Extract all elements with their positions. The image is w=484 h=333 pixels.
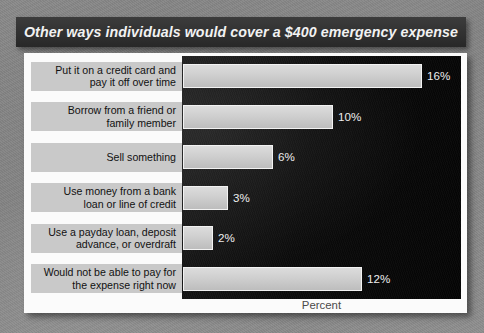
category-label-line: Use a payday loan, deposit (48, 226, 176, 238)
bar (183, 145, 273, 169)
bar-value-label: 3% (233, 191, 250, 204)
plot-area: 16%10%6%3%2%12% (182, 56, 461, 299)
bar-value-label: 2% (218, 231, 235, 244)
category-label-line: loan or line of credit (84, 198, 176, 210)
bar (183, 105, 333, 129)
category-label: Use money from a bankloan or line of cre… (31, 183, 182, 212)
category-label-column: Put it on a credit card andpay it off ov… (31, 56, 182, 299)
category-label: Borrow from a friend orfamily member (31, 102, 182, 131)
category-label-line: Borrow from a friend or (68, 104, 176, 116)
category-label: Sell something (31, 143, 182, 172)
bar (183, 186, 228, 210)
category-label-line: Use money from a bank (64, 185, 176, 197)
bar-value-label: 12% (367, 272, 390, 285)
bar (183, 226, 213, 250)
chart-card: Put it on a credit card andpay it off ov… (24, 53, 467, 313)
bar (183, 267, 362, 291)
category-label-line: family member (107, 117, 176, 129)
bar-value-label: 16% (427, 69, 450, 82)
category-label: Use a payday loan, depositadvance, or ov… (31, 224, 182, 253)
category-label: Would not be able to pay forthe expense … (31, 264, 182, 293)
category-label-line: Put it on a credit card and (55, 64, 176, 76)
category-label-line: pay it off over time (90, 76, 176, 88)
category-label-line: advance, or overdraft (76, 238, 176, 250)
category-label: Put it on a credit card andpay it off ov… (31, 62, 182, 91)
bar-value-label: 6% (278, 150, 295, 163)
bar-value-label: 10% (338, 110, 361, 123)
category-label-line: Sell something (107, 151, 177, 163)
chart-title-banner: Other ways individuals would cover a $40… (16, 17, 466, 47)
bar (183, 64, 422, 88)
x-axis-title: Percent (182, 299, 461, 311)
chart-body: Put it on a credit card andpay it off ov… (24, 53, 467, 313)
category-label-line: Would not be able to pay for (44, 266, 176, 278)
chart-title: Other ways individuals would cover a $40… (24, 24, 458, 40)
category-label-line: the expense right now (72, 279, 176, 291)
